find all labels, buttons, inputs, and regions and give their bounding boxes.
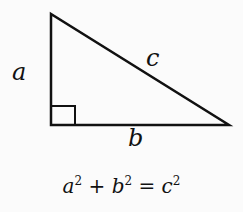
eq-a: a xyxy=(63,174,75,198)
eq-exp-a: 2 xyxy=(75,174,83,188)
right-angle-marker xyxy=(51,106,75,125)
eq-plus: + xyxy=(82,174,111,198)
label-a: a xyxy=(12,58,26,86)
pythagorean-equation: a2 + b2 = c2 xyxy=(0,174,243,198)
label-b: b xyxy=(128,124,143,152)
eq-exp-b: 2 xyxy=(124,174,132,188)
eq-exp-c: 2 xyxy=(173,174,181,188)
eq-equals: = xyxy=(132,174,161,198)
eq-c: c xyxy=(162,174,173,198)
eq-b: b xyxy=(112,174,125,198)
label-c: c xyxy=(146,44,159,72)
right-triangle xyxy=(51,14,229,125)
